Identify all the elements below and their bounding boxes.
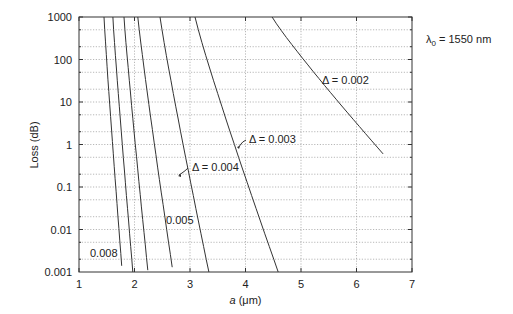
wavelength-annotation: λ0 = 1550 nm <box>426 33 491 48</box>
y-tick-labels: 1000 100 10 1 0.1 0.01 0.001 <box>44 11 72 278</box>
label-delta-0.004: Δ = 0.004 <box>192 161 239 173</box>
y-tick-1000: 1000 <box>48 11 72 23</box>
label-delta-0.008: 0.008 <box>90 247 118 259</box>
x-tick-labels: 1 2 3 4 5 6 7 <box>76 278 415 290</box>
data-curves <box>104 17 383 272</box>
y-tick-0.01: 0.01 <box>51 224 72 236</box>
loss-vs-core-radius-chart: 1 2 3 4 5 6 7 1000 100 10 1 0.1 0.01 0.0… <box>0 0 513 314</box>
y-tick-100: 100 <box>54 54 72 66</box>
curve-0.008 <box>104 17 122 266</box>
x-tick-4: 4 <box>242 278 248 290</box>
x-tick-6: 6 <box>353 278 359 290</box>
lambda-value: = 1550 nm <box>436 33 491 45</box>
y-tick-1: 1 <box>66 139 72 151</box>
arrowhead-0.003 <box>237 146 240 149</box>
x-tick-7: 7 <box>409 278 415 290</box>
x-tick-1: 1 <box>76 278 82 290</box>
curve-2 <box>124 17 148 270</box>
x-tick-3: 3 <box>187 278 193 290</box>
label-delta-0.003: Δ = 0.003 <box>249 133 296 145</box>
x-tick-5: 5 <box>298 278 304 290</box>
y-axis-label: Loss (dB) <box>28 121 40 168</box>
y-tick-0.1: 0.1 <box>57 181 72 193</box>
label-delta-0.002: Δ = 0.002 <box>322 74 369 86</box>
x-axis-label-unit: (μm) <box>236 294 262 306</box>
x-tick-2: 2 <box>131 278 137 290</box>
y-tick-10: 10 <box>60 96 72 108</box>
grid-lines <box>79 17 412 272</box>
y-tick-0.001: 0.001 <box>44 266 72 278</box>
label-delta-0.005: 0.005 <box>166 214 194 226</box>
x-axis-label: a (μm) <box>229 294 261 306</box>
